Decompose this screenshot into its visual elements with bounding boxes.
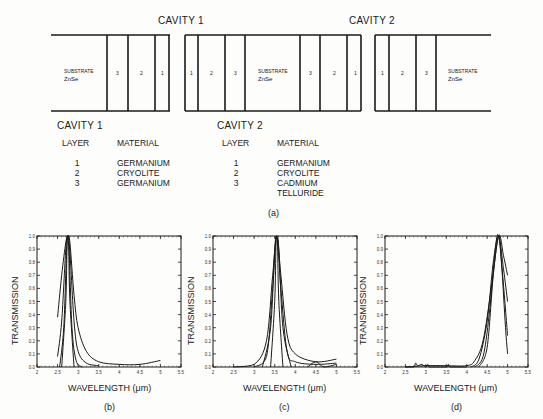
svg-text:0.6: 0.6 xyxy=(377,286,384,291)
transmission-charts: 0.00.10.20.30.40.50.60.70.80.91.022.533.… xyxy=(0,0,543,419)
svg-text:4.5: 4.5 xyxy=(137,370,144,375)
svg-text:2.5: 2.5 xyxy=(230,370,237,375)
svg-text:0.0: 0.0 xyxy=(205,365,212,370)
chart-3: 0.00.10.20.30.40.50.60.70.80.91.022.533.… xyxy=(377,234,532,375)
svg-text:0.6: 0.6 xyxy=(205,286,212,291)
svg-text:2.5: 2.5 xyxy=(54,370,61,375)
svg-text:3: 3 xyxy=(425,370,428,375)
svg-text:0.8: 0.8 xyxy=(377,260,384,265)
series-curve-2 xyxy=(471,236,508,367)
svg-text:0.0: 0.0 xyxy=(377,365,384,370)
svg-text:2: 2 xyxy=(36,370,39,375)
caption-c: (c) xyxy=(279,402,290,412)
svg-text:4.5: 4.5 xyxy=(484,370,491,375)
y-axis-label-b: TRANSMISSION xyxy=(10,276,20,345)
svg-text:2: 2 xyxy=(212,370,215,375)
svg-text:4: 4 xyxy=(465,370,468,375)
svg-text:0.7: 0.7 xyxy=(377,273,384,278)
chart-1: 0.00.10.20.30.40.50.60.70.80.91.022.533.… xyxy=(29,234,185,375)
svg-text:5: 5 xyxy=(506,370,509,375)
svg-text:0.2: 0.2 xyxy=(377,339,384,344)
svg-text:0.5: 0.5 xyxy=(377,300,384,305)
svg-text:0.6: 0.6 xyxy=(29,286,36,291)
svg-text:0.1: 0.1 xyxy=(29,352,36,357)
svg-text:0.8: 0.8 xyxy=(205,260,212,265)
svg-text:5.5: 5.5 xyxy=(178,370,185,375)
svg-text:0.8: 0.8 xyxy=(29,260,36,265)
svg-text:0.9: 0.9 xyxy=(29,247,36,252)
svg-text:0.1: 0.1 xyxy=(377,352,384,357)
svg-text:1.0: 1.0 xyxy=(29,234,36,239)
svg-text:5: 5 xyxy=(335,370,338,375)
svg-text:0.1: 0.1 xyxy=(205,352,212,357)
svg-text:0.9: 0.9 xyxy=(205,247,212,252)
svg-text:3: 3 xyxy=(77,370,80,375)
svg-text:0.5: 0.5 xyxy=(205,300,212,305)
series-curve-1 xyxy=(234,236,337,367)
y-axis-label-d: TRANSMISSION xyxy=(358,276,368,345)
series-curve-1 xyxy=(405,235,507,367)
x-axis-label-d: WAVELENGTH (μm) xyxy=(414,383,497,393)
svg-text:0.3: 0.3 xyxy=(205,326,212,331)
svg-text:5: 5 xyxy=(159,370,162,375)
svg-text:5.5: 5.5 xyxy=(525,370,532,375)
svg-text:0.3: 0.3 xyxy=(29,326,36,331)
svg-text:0.3: 0.3 xyxy=(377,326,384,331)
svg-text:0.4: 0.4 xyxy=(377,313,384,318)
svg-text:1.0: 1.0 xyxy=(377,234,384,239)
caption-d: (d) xyxy=(451,402,462,412)
svg-text:3.5: 3.5 xyxy=(96,370,103,375)
svg-text:0.5: 0.5 xyxy=(29,300,36,305)
svg-text:0.7: 0.7 xyxy=(205,273,212,278)
svg-text:4: 4 xyxy=(294,370,297,375)
svg-text:3: 3 xyxy=(253,370,256,375)
svg-text:0.7: 0.7 xyxy=(29,273,36,278)
svg-text:2.5: 2.5 xyxy=(402,370,409,375)
svg-text:2: 2 xyxy=(384,370,387,375)
svg-text:3.5: 3.5 xyxy=(272,370,279,375)
x-axis-label-b: WAVELENGTH (μm) xyxy=(68,383,151,393)
svg-text:0.4: 0.4 xyxy=(205,313,212,318)
y-axis-label-c: TRANSMISSION xyxy=(186,276,196,345)
svg-text:0.0: 0.0 xyxy=(29,365,36,370)
svg-text:0.9: 0.9 xyxy=(377,247,384,252)
svg-text:1.0: 1.0 xyxy=(205,234,212,239)
series-curve-2 xyxy=(254,236,336,367)
svg-text:4: 4 xyxy=(118,370,121,375)
svg-text:0.4: 0.4 xyxy=(29,313,36,318)
svg-text:4.5: 4.5 xyxy=(313,370,320,375)
chart-2: 0.00.10.20.30.40.50.60.70.80.91.022.533.… xyxy=(205,234,361,375)
x-axis-label-c: WAVELENGTH (μm) xyxy=(243,383,326,393)
svg-text:3.5: 3.5 xyxy=(443,370,450,375)
caption-b: (b) xyxy=(104,402,115,412)
svg-text:0.2: 0.2 xyxy=(205,339,212,344)
svg-text:5.5: 5.5 xyxy=(354,370,361,375)
svg-text:0.2: 0.2 xyxy=(29,339,36,344)
